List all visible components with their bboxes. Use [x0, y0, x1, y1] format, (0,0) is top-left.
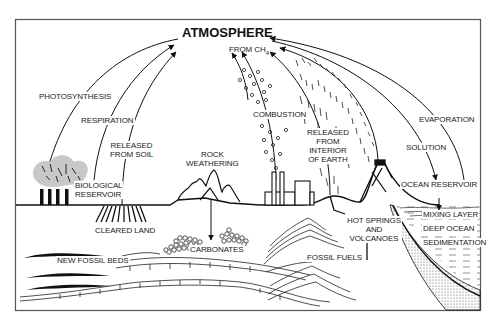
solution-label: SOLUTION — [405, 143, 447, 152]
biological-reservoir-line1: BIOLOGICAL — [75, 181, 122, 190]
released-from-soil-label: RELEASED FROM SOIL — [109, 141, 154, 159]
new-fossil-beds-label: NEW FOSSIL BEDS — [56, 256, 130, 265]
released-from-soil-line2: FROM SOIL — [110, 150, 153, 159]
evaporation-label: EVAPORATION — [418, 115, 476, 124]
hot-springs-line2: AND — [347, 225, 401, 234]
ocean-reservoir-label: OCEAN RESERVOIR — [400, 180, 478, 189]
hot-springs-line1: HOT SPRINGS — [347, 216, 401, 225]
released-from-soil-line1: RELEASED — [110, 141, 153, 150]
released-from-interior-label: RELEASED FROM INTERIOR OF EARTH — [306, 128, 350, 164]
from-ch4-label: FROM CH4 — [229, 45, 269, 58]
combustion-label: COMBUSTION — [252, 110, 307, 119]
respiration-label: RESPIRATION — [80, 116, 135, 125]
mixing-layer-label: MIXING LAYER — [422, 210, 479, 219]
biological-reservoir-label: BIOLOGICAL RESERVOIR — [74, 181, 123, 199]
from-ch4-text: FROM CH — [229, 45, 266, 54]
cleared-land-label: CLEARED LAND — [95, 226, 155, 235]
photosynthesis-label: PHOTOSYNTHESIS — [38, 92, 112, 101]
atmosphere-label: ATMOSPHERE — [182, 28, 273, 37]
released-from-interior-line2: FROM — [307, 137, 349, 146]
released-from-interior-line4: OF EARTH — [307, 155, 349, 164]
hot-springs-volcanoes-label: HOT SPRINGS AND VOLCANOES — [346, 216, 402, 243]
carbonates-label: CARBONATES — [189, 245, 245, 254]
rock-weathering-label: ROCK WEATHERING — [186, 150, 239, 168]
biological-reservoir-line2: RESERVOIR — [75, 190, 122, 199]
rock-weathering-line1: ROCK — [186, 150, 239, 159]
deep-ocean-label: DEEP OCEAN — [422, 224, 475, 233]
released-from-interior-line3: INTERIOR — [307, 146, 349, 155]
rock-weathering-line2: WEATHERING — [186, 159, 239, 168]
ch4-subscript: 4 — [266, 50, 269, 56]
hot-springs-line3: VOLCANOES — [347, 234, 401, 243]
released-from-interior-line1: RELEASED — [307, 128, 349, 137]
fossil-fuels-label: FOSSIL FUELS — [306, 253, 363, 262]
sedimentation-label: SEDIMENTATION — [422, 238, 487, 247]
